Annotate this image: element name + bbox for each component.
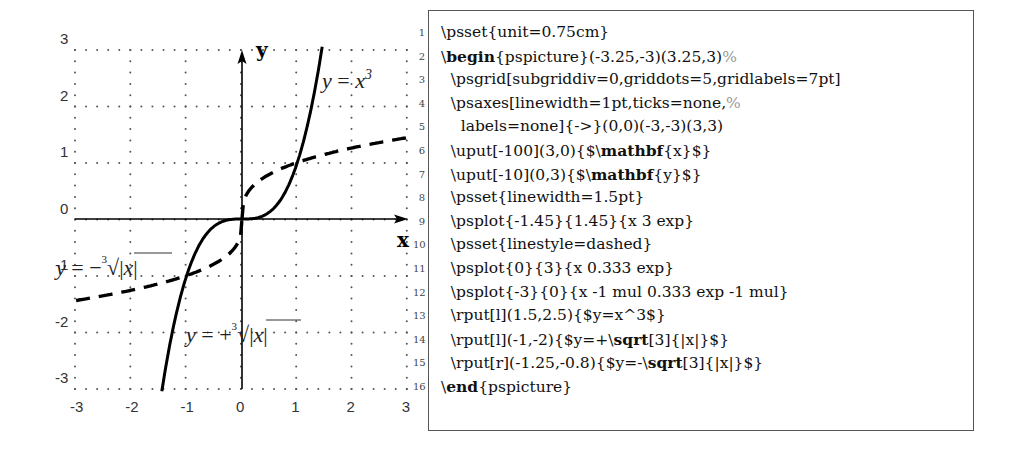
x-grid-label: 2	[347, 398, 355, 415]
line-number: 1	[413, 21, 425, 45]
y-grid-label: 2	[60, 87, 68, 104]
code-listing: 1\psset{unit=0.75cm}2\begin{pspicture}(-…	[428, 10, 974, 431]
code-text: \psset{linewidth=1.5pt}	[441, 186, 644, 210]
code-text: \psplot{-3}{0}{x -1 mul 0.333 exp -1 mul…	[441, 281, 789, 305]
line-number: 7	[413, 163, 425, 187]
line-number: 14	[413, 328, 425, 352]
line-number: 3	[413, 68, 425, 92]
x-grid-label: 0	[236, 398, 244, 415]
x-grid-label: 3	[402, 398, 410, 415]
code-text: \rput[l](-1,-2){$y=+\sqrt[3]{|x|}$}	[441, 328, 729, 353]
label-cbrt-pos: y = +3√|x|	[184, 320, 268, 347]
y-grid-label: -2	[55, 313, 68, 330]
y-grid-label: -3	[55, 369, 68, 386]
line-number: 8	[413, 186, 425, 210]
y-grid-label: 1	[60, 143, 68, 160]
code-text: \psset{linestyle=dashed}	[441, 233, 652, 257]
label-cubic: y = x3	[320, 67, 372, 93]
code-text: \rput[r](-1.25,-0.8){$y=-\sqrt[3]{|x|}$}	[441, 351, 763, 376]
function-plot: -3-2-101233210-1-2-3 x y y = x3 y = +3√|…	[0, 0, 420, 459]
line-number: 15	[413, 351, 425, 375]
line-number: 13	[413, 304, 425, 328]
x-axis-label: x	[397, 228, 410, 252]
code-text: \begin{pspicture}(-3.25,-3)(3.25,3)%	[441, 45, 737, 70]
y-grid-label: 0	[60, 200, 68, 217]
y-grid-label: 3	[60, 30, 68, 47]
code-text: \psgrid[subgriddiv=0,griddots=5,gridlabe…	[441, 68, 841, 92]
y-axis-label: y	[255, 38, 269, 62]
line-number: 10	[413, 233, 425, 257]
line-number: 5	[413, 115, 425, 139]
x-grid-label: 1	[291, 398, 299, 415]
x-grid-label: -2	[125, 398, 138, 415]
curve-cbrt-positive	[242, 138, 408, 220]
line-number: 16	[413, 375, 425, 399]
code-text: \psplot{-1.45}{1.45}{x 3 exp}	[441, 210, 694, 234]
code-text: labels=none]{->}(0,0)(-3,-3)(3,3)	[441, 115, 723, 139]
x-grid-label: -3	[70, 398, 83, 415]
code-text: \psset{unit=0.75cm}	[441, 21, 609, 45]
code-text: \psaxes[linewidth=1pt,ticks=none,%	[441, 92, 741, 116]
code-text: \uput[-10](0,3){$\mathbf{y}$}	[441, 163, 702, 188]
x-grid-label: -1	[181, 398, 194, 415]
line-number: 11	[413, 257, 425, 281]
line-number: 12	[413, 281, 425, 305]
label-cbrt-neg: y = −3√|x|	[54, 253, 138, 280]
line-number: 2	[413, 45, 425, 69]
code-text: \end{pspicture}	[441, 375, 572, 400]
code-text: \uput[-100](3,0){$\mathbf{x}$}	[441, 139, 711, 164]
line-number: 4	[413, 92, 425, 116]
line-number: 9	[413, 210, 425, 234]
code-text: \psplot{0}{3}{x 0.333 exp}	[441, 257, 674, 281]
code-text: \rput[l](1.5,2.5){$y=x^3$}	[441, 304, 666, 328]
line-number: 6	[413, 139, 425, 163]
curve-labels: y = x3 y = +3√|x| y = −3√|x|	[54, 67, 372, 347]
